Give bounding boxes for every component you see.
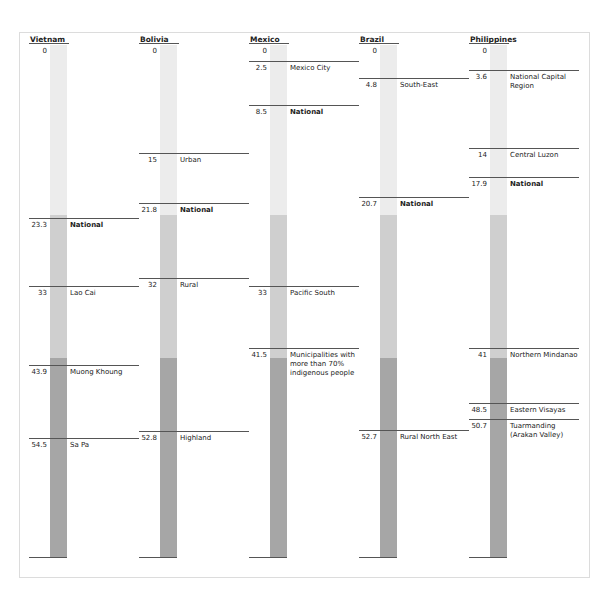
base-rule — [249, 557, 287, 558]
marker-value: 50.7 — [469, 422, 487, 430]
marker-line — [139, 203, 249, 204]
band-dark-bar-segment — [380, 358, 397, 557]
band-light-bar-segment — [50, 45, 67, 215]
marker-line — [29, 286, 139, 287]
marker-value: 52.8 — [139, 434, 157, 442]
marker-line — [469, 419, 579, 420]
marker-value: 14 — [469, 151, 487, 159]
column-mexico: Mexico02.5Mexico City8.5National33Pacifi… — [239, 0, 349, 595]
marker-line — [469, 177, 579, 178]
column-philippines: Philippines03.6National Capital Region14… — [459, 0, 569, 595]
marker-line — [139, 278, 249, 279]
band-mid-bar-segment — [160, 215, 177, 358]
marker-value: 54.5 — [29, 441, 47, 449]
band-light-bar-segment — [270, 45, 287, 215]
column-bolivia: Bolivia015Urban21.8National32Rural52.8Hi… — [129, 0, 239, 595]
marker-value: 20.7 — [359, 200, 377, 208]
marker-line — [469, 348, 579, 349]
band-dark-bar-segment — [490, 358, 507, 557]
marker-value: 33 — [249, 289, 267, 297]
band-dark-bar-segment — [50, 358, 67, 557]
base-rule — [29, 557, 67, 558]
title-rule — [469, 43, 509, 44]
band-light-bar-segment — [160, 45, 177, 215]
title-rule — [359, 43, 399, 44]
marker-value: 2.5 — [249, 64, 267, 72]
base-rule — [139, 557, 177, 558]
zero-value-label: 0 — [359, 47, 377, 55]
marker-label: Eastern Visayas — [510, 406, 582, 415]
column-vietnam: Vietnam023.3National33Lao Cai43.9Muong K… — [19, 0, 129, 595]
marker-value: 3.6 — [469, 73, 487, 81]
zero-value-label: 0 — [469, 47, 487, 55]
marker-value: 33 — [29, 289, 47, 297]
marker-line — [29, 218, 139, 219]
marker-line — [359, 430, 469, 431]
zero-value-label: 0 — [139, 47, 157, 55]
zero-value-label: 0 — [249, 47, 267, 55]
marker-value: 52.7 — [359, 433, 377, 441]
marker-line — [249, 348, 359, 349]
marker-label: National Capital Region — [510, 73, 582, 91]
band-mid-bar-segment — [380, 215, 397, 358]
marker-line — [139, 431, 249, 432]
marker-label: Central Luzon — [510, 151, 582, 160]
marker-value: 41 — [469, 351, 487, 359]
marker-label: National — [510, 180, 582, 189]
marker-value: 23.3 — [29, 221, 47, 229]
band-dark-bar-segment — [160, 358, 177, 557]
zero-value-label: 0 — [29, 47, 47, 55]
marker-value: 4.8 — [359, 81, 377, 89]
marker-line — [249, 61, 359, 62]
marker-line — [29, 365, 139, 366]
marker-line — [469, 403, 579, 404]
title-rule — [249, 43, 289, 44]
marker-value: 48.5 — [469, 406, 487, 414]
marker-value: 41.5 — [249, 351, 267, 359]
marker-value: 21.8 — [139, 206, 157, 214]
marker-line — [469, 148, 579, 149]
marker-line — [29, 438, 139, 439]
band-dark-bar-segment — [270, 358, 287, 557]
band-light-bar-segment — [380, 45, 397, 215]
band-mid-bar-segment — [490, 215, 507, 358]
column-brazil: Brazil04.8South-East20.7National52.7Rura… — [349, 0, 459, 595]
marker-line — [139, 153, 249, 154]
marker-label: Tuarmanding (Arakan Valley) — [510, 422, 582, 440]
marker-value: 17.9 — [469, 180, 487, 188]
title-rule — [29, 43, 69, 44]
marker-value: 15 — [139, 156, 157, 164]
title-rule — [139, 43, 179, 44]
marker-value: 43.9 — [29, 368, 47, 376]
marker-line — [249, 105, 359, 106]
marker-line — [359, 78, 469, 79]
marker-line — [469, 70, 579, 71]
base-rule — [469, 557, 507, 558]
marker-label: Northern Mindanao — [510, 351, 582, 360]
marker-value: 8.5 — [249, 108, 267, 116]
marker-line — [249, 286, 359, 287]
base-rule — [359, 557, 397, 558]
marker-line — [359, 197, 469, 198]
marker-value: 32 — [139, 281, 157, 289]
